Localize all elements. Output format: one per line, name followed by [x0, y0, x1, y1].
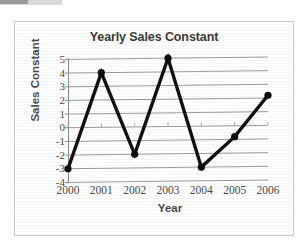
y-axis-tick-label: -2 [41, 150, 65, 161]
x-axis-tick-label: 2005 [220, 184, 250, 196]
data-point-marker[interactable] [231, 133, 238, 140]
data-point-marker[interactable] [131, 151, 138, 158]
gridline [68, 180, 268, 182]
y-axis-tick-label: 3 [41, 81, 65, 92]
plot-area [68, 57, 268, 180]
y-axis-tick-label: 1 [41, 109, 65, 120]
y-axis-tick-labels: 543210-1-2-3-4 [41, 51, 65, 187]
chart-container: Yearly Sales Constant Sales Constant 543… [14, 21, 294, 236]
y-axis-title: Sales Constant [29, 27, 41, 133]
data-point-marker[interactable] [98, 69, 105, 76]
y-axis-tick-label: 5 [41, 54, 65, 65]
data-point-marker[interactable] [264, 92, 271, 99]
data-point-marker[interactable] [64, 165, 71, 172]
y-axis-tick-label: -1 [41, 136, 65, 147]
y-axis-tick-label: 2 [41, 95, 65, 106]
y-axis-tick-label: 0 [41, 122, 65, 133]
chart-title: Yearly Sales Constant [15, 30, 293, 44]
x-axis-tick-labels: 2000200120022003200420052006 [55, 184, 281, 200]
series-line-sales-constant [68, 58, 268, 169]
x-axis-tick-label: 2000 [53, 184, 83, 196]
y-axis-tick-label: -3 [41, 163, 65, 174]
data-point-marker[interactable] [198, 164, 205, 171]
data-point-marker[interactable] [164, 55, 171, 62]
y-axis-tick-label: 4 [41, 68, 65, 79]
data-series-layer [68, 57, 268, 180]
x-axis-title: Year [55, 202, 285, 214]
x-axis-tick-label: 2006 [253, 184, 283, 196]
x-axis-tick-label: 2003 [153, 184, 183, 196]
scan-artifact-dark-block [0, 0, 28, 4]
x-axis-tick-label: 2002 [120, 184, 150, 196]
x-axis-tick-label: 2004 [186, 184, 216, 196]
x-axis-tick-label: 2001 [86, 184, 116, 196]
